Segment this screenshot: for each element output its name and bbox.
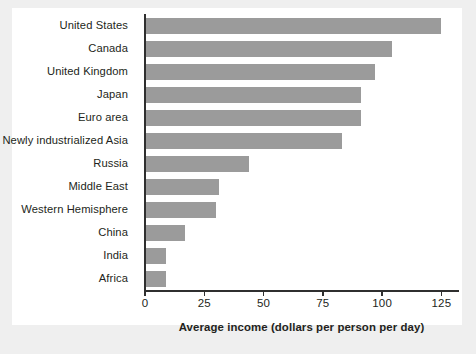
x-axis-tick-label: 100	[372, 297, 392, 309]
plot-area	[145, 14, 458, 290]
y-axis-label: Western Hemisphere	[21, 198, 128, 221]
bar	[145, 110, 361, 126]
bar-chart: United StatesCanadaUnited KingdomJapanEu…	[0, 0, 476, 354]
y-axis-label: United Kingdom	[47, 60, 128, 83]
y-axis-label: Middle East	[68, 175, 128, 198]
x-axis-tick-mark	[441, 291, 442, 296]
y-axis-label: Japan	[97, 83, 128, 106]
x-axis-tick-label: 25	[198, 297, 211, 309]
bar	[145, 202, 216, 218]
bar	[145, 179, 219, 195]
bar	[145, 156, 249, 172]
bar	[145, 64, 375, 80]
bar	[145, 271, 166, 287]
x-axis-tick-label: 50	[257, 297, 270, 309]
figure-container: United StatesCanadaUnited KingdomJapanEu…	[0, 0, 476, 354]
y-axis-label: Euro area	[78, 106, 128, 129]
x-axis-tick-mark	[204, 291, 205, 296]
x-axis-title: Average income (dollars per person per d…	[145, 321, 458, 333]
bar	[145, 18, 441, 34]
bar	[145, 133, 342, 149]
y-axis-label: United States	[60, 14, 128, 37]
y-axis-label: Russia	[93, 152, 128, 175]
x-axis-line	[144, 290, 459, 292]
y-axis-label: India	[103, 244, 128, 267]
y-axis-category-labels: United StatesCanadaUnited KingdomJapanEu…	[0, 14, 133, 290]
x-axis-tick-mark	[322, 291, 323, 296]
bar	[145, 87, 361, 103]
bar	[145, 41, 392, 57]
y-axis-line	[144, 14, 146, 292]
bar	[145, 225, 185, 241]
x-axis-tick-mark	[381, 291, 382, 296]
x-axis-tick-mark	[144, 291, 145, 296]
x-axis-tick-label: 125	[431, 297, 451, 309]
y-axis-label: Newly industrialized Asia	[2, 129, 128, 152]
y-axis-label: Africa	[99, 267, 128, 290]
x-axis-tick-label: 75	[316, 297, 329, 309]
y-axis-label: China	[98, 221, 128, 244]
x-axis-tick-label: 0	[142, 297, 149, 309]
x-axis-tick-mark	[263, 291, 264, 296]
y-axis-label: Canada	[88, 37, 128, 60]
bar	[145, 248, 166, 264]
